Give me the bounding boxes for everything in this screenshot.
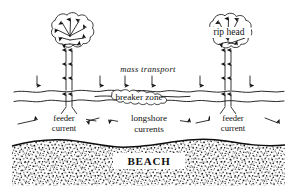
beach-label: BEACH [127, 155, 170, 167]
feeder-current-right: feeder current [210, 113, 256, 134]
longshore-currents-center: longshore currents [118, 113, 180, 134]
feeder-current-left: feeder current [42, 113, 86, 134]
rip-head-left [51, 13, 93, 48]
feeder-current-left-label-line1: feeder [53, 113, 75, 123]
feeder-current-right-label-line1: feeder [222, 113, 244, 123]
rip-head-arrow [70, 20, 71, 37]
feeder-current-right-label-line2: current [221, 123, 246, 133]
longshore-arrow [196, 120, 210, 123]
breaker-zone-label: breaker zone [115, 92, 162, 102]
rip-neck-right [219, 50, 237, 116]
breaker-zone-band: breaker zone [14, 90, 284, 105]
longshore-arrow [18, 120, 36, 124]
beach-region: BEACH [10, 138, 290, 188]
diagram-canvas: BEACH breaker zone mass transport [0, 0, 297, 190]
longshore-currents-label-line1: longshore [131, 113, 167, 123]
longshore-arrow [265, 118, 278, 123]
longshore-currents-label-line2: currents [134, 124, 164, 134]
rip-head-label: rip head [214, 27, 245, 37]
rip-head-arrow [64, 44, 70, 45]
mass-transport-label: mass transport [120, 64, 176, 74]
nearshore-circulation-figure: BEACH breaker zone mass transport [0, 0, 297, 190]
feeder-current-left-label-line2: current [52, 123, 77, 133]
rip-neck-left [60, 50, 78, 116]
rip-head-right: rip head [207, 13, 252, 48]
mass-transport-arrows [37, 76, 250, 86]
